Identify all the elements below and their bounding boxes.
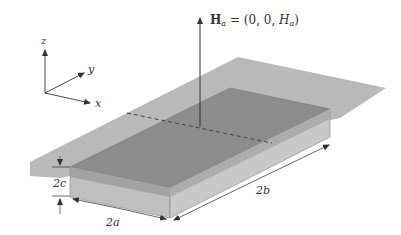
thickness-label: 2c xyxy=(52,177,66,190)
coordinate-axes xyxy=(45,50,90,103)
z-axis-label: z xyxy=(40,35,47,46)
width-label: 2a xyxy=(105,216,120,229)
x-axis-label: x xyxy=(95,97,102,110)
y-axis-label: y xyxy=(87,63,95,76)
slab-diagram: Ha = (0, 0, Ha) z y x 2c 2a 2b xyxy=(0,0,401,235)
length-label: 2b xyxy=(255,184,270,197)
field-label: Ha = (0, 0, Ha) xyxy=(210,13,299,28)
